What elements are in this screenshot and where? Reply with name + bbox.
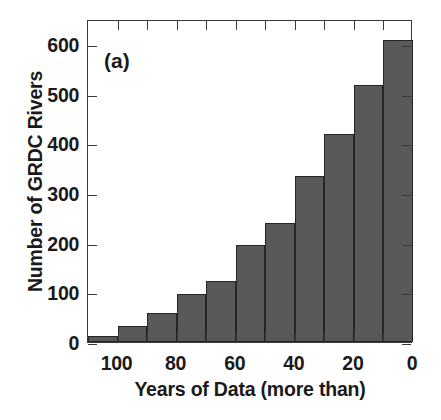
y-tick-label: 600: [9, 33, 79, 56]
x-tick-mark: [236, 333, 237, 342]
y-tick-mark-right: [402, 46, 411, 47]
bar: [295, 176, 325, 342]
x-tick-mark-top: [354, 21, 355, 30]
bar: [88, 336, 118, 342]
x-axis-title: Years of Data (more than): [87, 378, 413, 401]
x-tick-mark: [265, 333, 266, 342]
y-tick-mark-right: [402, 145, 411, 146]
bar: [383, 40, 413, 342]
y-tick-mark: [88, 245, 97, 246]
y-tick-label: 500: [9, 83, 79, 106]
x-tick-mark: [206, 333, 207, 342]
x-tick-mark-top: [295, 21, 296, 30]
bar: [236, 245, 266, 342]
y-tick-mark-right: [402, 195, 411, 196]
y-tick-mark: [88, 46, 97, 47]
y-tick-mark: [88, 195, 97, 196]
y-tick-mark-right: [402, 245, 411, 246]
y-tick-label: 200: [9, 232, 79, 255]
bar: [265, 223, 295, 342]
y-tick-mark-right: [402, 294, 411, 295]
x-tick-mark: [354, 333, 355, 342]
x-tick-mark: [324, 333, 325, 342]
y-tick-mark-right: [402, 96, 411, 97]
bar-series: [88, 21, 411, 342]
y-tick-mark-right: [402, 344, 411, 345]
x-tick-label: 0: [372, 352, 441, 375]
x-tick-mark-top: [383, 21, 384, 30]
x-tick-mark-top: [177, 21, 178, 30]
y-tick-mark: [88, 145, 97, 146]
x-tick-mark: [383, 333, 384, 342]
x-tick-mark-top: [236, 21, 237, 30]
x-tick-mark: [147, 333, 148, 342]
y-tick-mark: [88, 294, 97, 295]
y-tick-label: 0: [9, 332, 79, 355]
bar: [177, 294, 207, 342]
y-tick-mark: [88, 96, 97, 97]
x-tick-mark-top: [265, 21, 266, 30]
x-tick-mark-top: [118, 21, 119, 30]
plot-area: (a): [87, 20, 412, 343]
y-tick-label: 100: [9, 282, 79, 305]
x-tick-mark-top: [147, 21, 148, 30]
bar: [324, 134, 354, 342]
x-tick-mark: [177, 333, 178, 342]
bar: [354, 85, 384, 342]
chart-figure: Number of GRDC Rivers Years of Data (mor…: [0, 0, 441, 420]
x-tick-mark: [295, 333, 296, 342]
y-tick-mark: [88, 344, 97, 345]
bar: [206, 281, 236, 342]
y-tick-label: 400: [9, 133, 79, 156]
y-tick-label: 300: [9, 182, 79, 205]
bar: [147, 313, 177, 342]
x-tick-mark: [118, 333, 119, 342]
x-tick-mark-top: [324, 21, 325, 30]
x-tick-mark-top: [206, 21, 207, 30]
bar: [118, 326, 148, 342]
